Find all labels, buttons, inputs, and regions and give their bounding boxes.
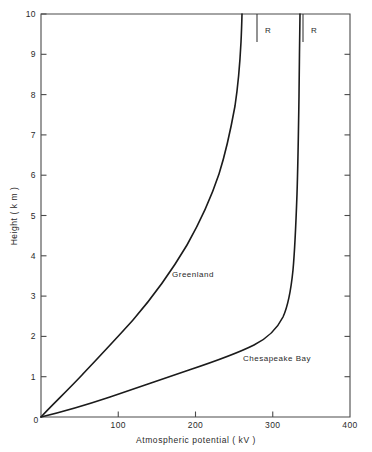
y-axis-ticks: [41, 14, 47, 377]
series-label-greenland: Greenland: [172, 270, 214, 279]
y-tick-label: 4: [31, 251, 36, 261]
figure-container: 10 9 8 7 6 5 4 3 2 1 0 100 200 300 400 A…: [0, 0, 372, 452]
x-tick-label: 400: [342, 420, 357, 430]
x-tick-label: 100: [111, 420, 126, 430]
atmospheric-potential-chart: 10 9 8 7 6 5 4 3 2 1 0 100 200 300 400 A…: [0, 0, 372, 452]
x-axis-ticks: [118, 412, 273, 418]
y-tick-label: 8: [31, 90, 36, 100]
series-line-greenland: [41, 14, 242, 417]
y-tick-label: 6: [31, 170, 36, 180]
y-tick-label: 7: [31, 130, 36, 140]
x-tick-label: 300: [265, 420, 280, 430]
r-mark-label: R: [311, 26, 317, 35]
r-mark-chesapeake-bay: R: [303, 14, 317, 42]
y-axis-title: Height ( k m ): [9, 187, 19, 246]
y-tick-label: 3: [31, 291, 36, 301]
y-tick-labels: 10 9 8 7 6 5 4 3 2 1 0: [26, 9, 39, 425]
x-tick-labels: 100 200 300 400: [111, 420, 358, 430]
right-axis-ticks: [345, 54, 351, 376]
y-tick-label: 9: [31, 49, 36, 59]
x-tick-label: 200: [188, 420, 203, 430]
r-mark-greenland: R: [257, 14, 271, 42]
y-tick-label: 1: [31, 372, 36, 382]
y-tick-label-zero: 0: [33, 415, 38, 425]
x-axis-title: Atmospheric potential ( kV ): [136, 435, 256, 445]
y-tick-label: 2: [31, 331, 36, 341]
r-mark-label: R: [265, 26, 271, 35]
y-tick-label: 5: [31, 211, 36, 221]
y-tick-label: 10: [26, 9, 36, 19]
series-label-chesapeake-bay: Chesapeake Bay: [243, 354, 311, 363]
